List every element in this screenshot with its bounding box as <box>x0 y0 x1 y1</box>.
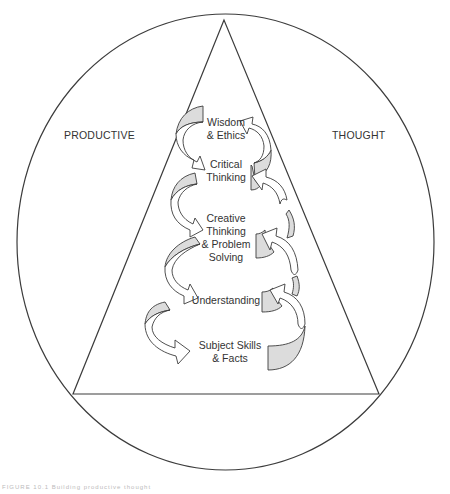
level-understanding: Understanding <box>190 294 262 307</box>
level-creative-line4: Solving <box>196 251 256 264</box>
level-subject-line1: Subject Skills <box>192 339 268 352</box>
level-critical-thinking: Critical Thinking <box>196 158 256 184</box>
level-creative-line1: Creative <box>196 212 256 225</box>
level-critical-line1: Critical <box>196 158 256 171</box>
level-subject-skills: Subject Skills & Facts <box>192 339 268 365</box>
level-creative-thinking: Creative Thinking & Problem Solving <box>196 212 256 264</box>
level-wisdom-line2: & Ethics <box>196 129 256 142</box>
level-understanding-line1: Understanding <box>190 294 262 307</box>
right-arrow-subject-icon <box>268 326 305 370</box>
right-arc-creative-shade <box>286 210 294 238</box>
figure-caption: FIGURE 10.1 Building productive thought <box>2 484 151 490</box>
level-critical-line2: Thinking <box>196 171 256 184</box>
level-creative-line2: Thinking <box>196 225 256 238</box>
level-creative-line3: & Problem <box>196 238 256 251</box>
label-thought: THOUGHT <box>332 129 385 141</box>
level-subject-line2: & Facts <box>192 352 268 365</box>
right-arc-understanding-shade <box>292 276 299 296</box>
pyramid-triangle <box>73 20 379 394</box>
level-wisdom-line1: Wisdom <box>196 116 256 129</box>
left-arrow-subject-icon <box>145 310 190 364</box>
level-wisdom-ethics: Wisdom & Ethics <box>196 116 256 142</box>
label-productive: PRODUCTIVE <box>64 129 135 141</box>
